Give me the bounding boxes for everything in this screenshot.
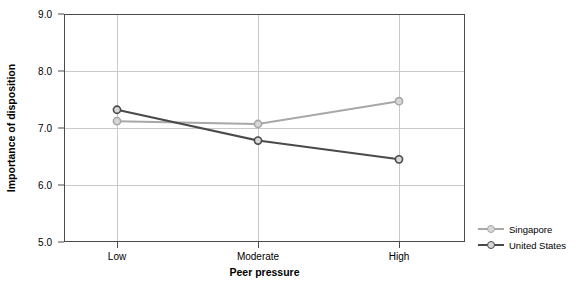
x-tick-label: Low [108, 251, 126, 262]
x-tick-label: High [389, 251, 410, 262]
data-point-marker [254, 137, 261, 144]
y-tick-label: 7.0 [38, 123, 52, 134]
legend-marker-icon [487, 225, 495, 233]
y-tick-label: 6.0 [38, 180, 52, 191]
chart-legend: SingaporeUnited States [478, 222, 583, 254]
legend-swatch-icon [478, 223, 504, 235]
y-axis: 5.06.07.08.09.0 [0, 0, 64, 292]
series-layer [64, 14, 465, 242]
x-tick-label: Moderate [237, 251, 279, 262]
x-tick-mark [258, 242, 259, 248]
y-tick-label: 9.0 [38, 9, 52, 20]
legend-marker-icon [487, 241, 495, 249]
legend-item-label: United States [509, 240, 566, 251]
x-axis-title: Peer pressure [64, 266, 465, 278]
chart-figure: Importance of disposition 5.06.07.08.09.… [0, 0, 583, 292]
series-line [117, 110, 399, 160]
legend-swatch-icon [478, 239, 504, 251]
x-tick-mark [399, 242, 400, 248]
data-point-marker [395, 98, 402, 105]
data-point-marker [113, 118, 120, 125]
data-point-marker [395, 156, 402, 163]
y-tick-label: 5.0 [38, 237, 52, 248]
data-point-marker [254, 120, 261, 127]
legend-item-label: Singapore [509, 224, 552, 235]
legend-item[interactable]: United States [478, 238, 583, 252]
x-tick-mark [117, 242, 118, 248]
data-point-marker [113, 106, 120, 113]
y-tick-label: 8.0 [38, 66, 52, 77]
legend-item[interactable]: Singapore [478, 222, 583, 236]
